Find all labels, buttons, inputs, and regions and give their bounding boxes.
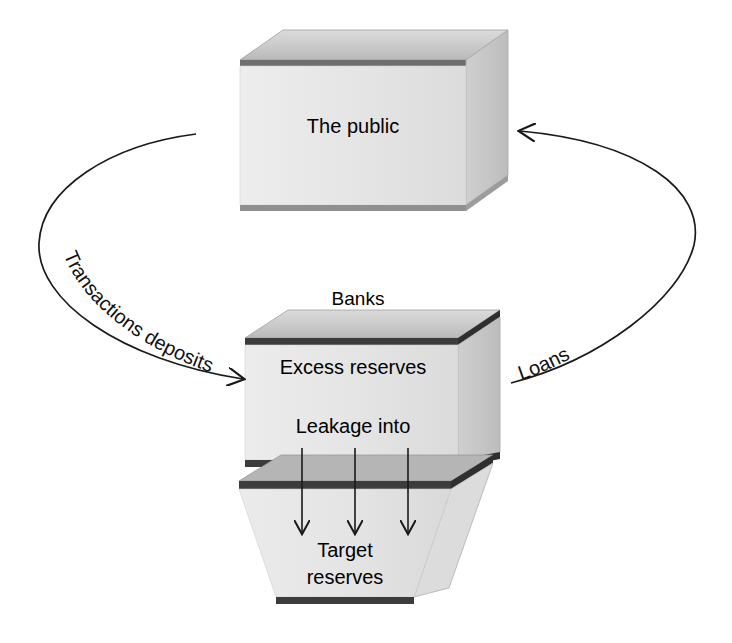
banks-box-top-edge bbox=[245, 338, 458, 345]
node-the-public: The public bbox=[240, 30, 508, 211]
public-box-side-face bbox=[466, 30, 508, 205]
diagram-canvas: The public Banks Excess reserves Leakage… bbox=[0, 0, 732, 643]
banks-title: Banks bbox=[332, 288, 385, 309]
funnel-bottom-edge bbox=[276, 597, 414, 604]
loans-flow-arrow bbox=[511, 131, 695, 383]
public-box-label: The public bbox=[307, 115, 399, 137]
target-reserves-label-line1: Target bbox=[317, 539, 373, 561]
public-box-top-edge bbox=[240, 60, 466, 66]
target-reserves-label-line2: reserves bbox=[307, 566, 384, 588]
banks-excess-reserves-label: Excess reserves bbox=[280, 356, 427, 378]
public-box-bottom-edge bbox=[240, 205, 466, 211]
deposits-edge-label: Transactions deposits bbox=[60, 247, 217, 376]
node-banks: Excess reserves Leakage into bbox=[245, 310, 500, 467]
loans-edge-label: Loans bbox=[515, 342, 573, 384]
funnel-top-face bbox=[239, 455, 493, 481]
node-target-reserves: Target reserves bbox=[239, 455, 493, 604]
money-creation-diagram: The public Banks Excess reserves Leakage… bbox=[0, 0, 732, 643]
funnel-top-edge bbox=[239, 481, 451, 489]
public-box-top-face bbox=[240, 30, 508, 60]
deposits-edge-label-text: Transactions deposits bbox=[60, 247, 217, 376]
loans-edge-label-text: Loans bbox=[515, 342, 573, 384]
banks-leakage-label: Leakage into bbox=[296, 415, 411, 437]
banks-box-top-face bbox=[245, 310, 500, 338]
